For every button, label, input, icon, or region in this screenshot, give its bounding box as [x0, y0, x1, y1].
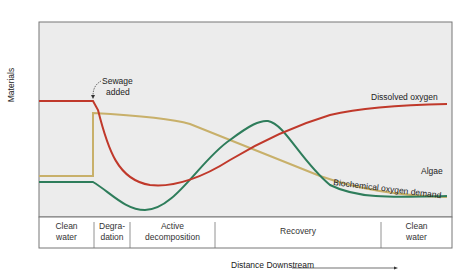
zone-label-line2: dation	[94, 232, 130, 243]
zone-label-line1: Clean	[381, 221, 452, 232]
zone-degradation: Degra- dation	[94, 221, 130, 243]
x-axis-label: Distance Downstream	[231, 260, 314, 270]
arrow-right-icon	[394, 267, 398, 270]
zone-label-line1: Clean	[39, 221, 94, 232]
zone-clean-water-2: Clean water	[381, 221, 452, 243]
sewage-label-line2: added	[106, 87, 130, 97]
stream-oxygen-diagram: Sewage added Dissolved oxygen Algae Bioc…	[0, 0, 473, 278]
label-dissolved-oxygen: Dissolved oxygen	[371, 92, 438, 102]
zone-label-line2: decomposition	[130, 232, 215, 243]
label-algae: Algae	[421, 166, 443, 176]
y-axis-label: Materials	[6, 50, 18, 120]
zone-label-line1: Active	[130, 221, 215, 232]
zone-label-line2: water	[39, 232, 94, 243]
zone-label-line1: Degra-	[94, 221, 130, 232]
zone-recovery: Recovery	[215, 226, 381, 237]
zone-clean-water-1: Clean water	[39, 221, 94, 243]
zone-active-decomposition: Active decomposition	[130, 221, 215, 243]
zone-label-line1: Recovery	[215, 226, 381, 237]
zone-label-line2: water	[381, 232, 452, 243]
sewage-label-line1: Sewage	[102, 76, 133, 86]
